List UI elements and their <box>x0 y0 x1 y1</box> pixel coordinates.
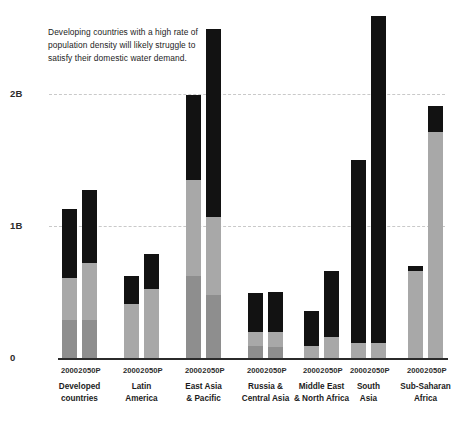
bar-segment-middle <box>82 263 97 320</box>
x-tick-2050p: 2050P <box>194 366 234 375</box>
y-axis-tick-0: 0 <box>10 352 44 363</box>
bar-russia-central-asia-2050p <box>268 292 283 358</box>
bar-south-asia-2000 <box>351 160 366 358</box>
bar-east-asia-pacific-2000 <box>186 95 201 358</box>
bar-segment-middle <box>206 217 221 295</box>
bar-segment-top <box>206 29 221 216</box>
bar-developed-countries-2000 <box>62 209 77 358</box>
bar-latin-america-2050p <box>144 254 159 358</box>
stacked-bar-chart: Developing countries with a high rate of… <box>0 0 468 421</box>
bar-segment-top <box>268 292 283 332</box>
bar-segment-middle <box>371 343 386 358</box>
bar-segment-middle <box>124 304 139 358</box>
bar-segment-top <box>371 16 386 343</box>
bar-latin-america-2000 <box>124 276 139 358</box>
bar-middle-east-north-africa-2000 <box>304 311 319 359</box>
bar-segment-top <box>351 160 366 343</box>
bar-middle-east-north-africa-2050p <box>324 271 339 358</box>
bar-segment-top <box>248 293 263 331</box>
bar-segment-middle <box>428 132 443 358</box>
bar-sub-saharan-africa-2050p <box>428 106 443 358</box>
x-group-label-sub-saharan-africa: Sub-SaharanAfrica <box>384 381 468 404</box>
bar-segment-bottom <box>248 346 263 358</box>
bar-segment-middle <box>324 337 339 358</box>
x-tick-2050p: 2050P <box>416 366 456 375</box>
bar-developed-countries-2050p <box>82 190 97 358</box>
bar-segment-top <box>186 95 201 179</box>
bar-segment-middle <box>408 271 423 358</box>
group-label-line-2: Africa <box>384 393 468 405</box>
x-tick-2050p: 2050P <box>256 366 296 375</box>
group-label-line-1: Sub-Saharan <box>384 381 468 393</box>
bar-segment-middle <box>144 289 159 358</box>
bar-segment-bottom <box>82 320 97 358</box>
y-axis-tick-2b: 2B <box>10 88 44 99</box>
y-axis-tick-1b: 1B <box>10 220 44 231</box>
bar-segment-bottom <box>62 320 77 358</box>
bar-south-asia-2050p <box>371 16 386 358</box>
x-tick-2050p: 2050P <box>359 366 399 375</box>
bar-segment-bottom <box>206 295 221 358</box>
x-tick-2050p: 2050P <box>132 366 172 375</box>
bar-segment-middle <box>304 346 319 358</box>
bar-east-asia-pacific-2050p <box>206 29 221 358</box>
bar-segment-top <box>304 311 319 347</box>
x-tick-2050p: 2050P <box>70 366 110 375</box>
x-axis-baseline <box>58 358 448 360</box>
bar-segment-top <box>324 271 339 337</box>
bar-segment-middle <box>351 343 366 358</box>
bar-segment-middle <box>248 332 263 347</box>
bar-segment-top <box>144 254 159 290</box>
bar-segment-top <box>428 106 443 132</box>
bar-segment-middle <box>62 278 77 320</box>
bar-segment-bottom <box>186 276 201 358</box>
bar-russia-central-asia-2000 <box>248 293 263 358</box>
bar-sub-saharan-africa-2000 <box>408 266 423 358</box>
bar-segment-middle <box>268 332 283 348</box>
bar-segment-top <box>124 276 139 304</box>
bar-segment-middle <box>186 180 201 276</box>
bar-segment-bottom <box>268 347 283 358</box>
bar-segment-top <box>62 209 77 278</box>
plot-area: 2B 1B 0 20002050PDevelopedcountries20002… <box>0 0 468 421</box>
bar-segment-top <box>82 190 97 263</box>
